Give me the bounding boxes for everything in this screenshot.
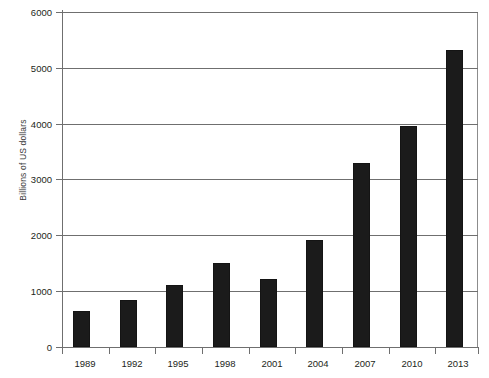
y-tick-label-3000: 3000 — [8, 175, 52, 185]
x-tick-label-2010: 2010 — [389, 359, 435, 369]
y-tick-1000 — [56, 291, 62, 292]
x-tick-label-2004: 2004 — [295, 359, 341, 369]
x-tick-1 — [109, 348, 110, 354]
y-tick-5000 — [56, 68, 62, 69]
x-tick-8 — [435, 348, 436, 354]
bar-2007 — [353, 163, 370, 347]
bar-2004 — [306, 240, 323, 347]
x-tick-4 — [249, 348, 250, 354]
y-tick-6000 — [56, 12, 62, 13]
y-tick-2000 — [56, 235, 62, 236]
bar-1998 — [213, 263, 230, 347]
bar-1989 — [73, 311, 90, 347]
y-tick-label-2000: 2000 — [8, 231, 52, 241]
gridline-4000 — [62, 124, 478, 125]
bar-2001 — [260, 279, 277, 347]
x-tick-2 — [155, 348, 156, 354]
x-tick-0 — [62, 348, 63, 354]
x-tick-label-2001: 2001 — [249, 359, 295, 369]
x-tick-7 — [389, 348, 390, 354]
y-tick-label-1000: 1000 — [8, 287, 52, 297]
bar-2010 — [400, 126, 417, 347]
x-tick-label-1995: 1995 — [155, 359, 201, 369]
x-axis-line — [56, 347, 479, 348]
y-axis-title: Billions of US dollars — [18, 90, 28, 230]
y-tick-label-5000: 5000 — [8, 64, 52, 74]
bar-1992 — [120, 300, 137, 347]
x-tick-label-2007: 2007 — [342, 359, 388, 369]
x-tick-label-1989: 1989 — [62, 359, 108, 369]
x-tick-9 — [478, 348, 479, 354]
y-tick-4000 — [56, 124, 62, 125]
x-tick-label-1992: 1992 — [109, 359, 155, 369]
y-tick-label-6000: 6000 — [8, 8, 52, 18]
y-tick-3000 — [56, 179, 62, 180]
bar-chart: Billions of US dollars 6000 5000 4000 30… — [0, 0, 489, 378]
x-tick-5 — [295, 348, 296, 354]
bar-2013 — [446, 50, 463, 347]
x-tick-3 — [202, 348, 203, 354]
plot-area — [62, 12, 478, 347]
gridline-6000 — [62, 12, 478, 13]
y-tick-label-4000: 4000 — [8, 120, 52, 130]
x-tick-label-2013: 2013 — [435, 359, 481, 369]
x-tick-6 — [342, 348, 343, 354]
x-tick-label-1998: 1998 — [202, 359, 248, 369]
gridline-5000 — [62, 68, 478, 69]
y-tick-label-0: 0 — [8, 343, 52, 353]
bar-1995 — [166, 285, 183, 347]
